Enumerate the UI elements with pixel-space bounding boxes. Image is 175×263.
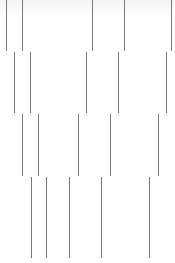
- vertical-line: [158, 114, 159, 176]
- line-row-4: [0, 177, 175, 258]
- vertical-line: [110, 114, 111, 176]
- vertical-line: [118, 52, 119, 113]
- vertical-line: [6, 0, 7, 51]
- vertical-line: [166, 52, 167, 113]
- vertical-line: [46, 177, 47, 258]
- vertical-line: [30, 52, 31, 113]
- vertical-line: [22, 0, 23, 51]
- line-row-1: [0, 0, 175, 51]
- vertical-line: [124, 0, 125, 51]
- vertical-line: [69, 177, 70, 258]
- vertical-line: [101, 177, 102, 258]
- vertical-line: [78, 114, 79, 176]
- vertical-line: [171, 0, 172, 51]
- vertical-line: [149, 177, 150, 258]
- vertical-line: [86, 52, 87, 113]
- vertical-line: [14, 52, 15, 113]
- line-row-3: [0, 114, 175, 176]
- line-row-2: [0, 52, 175, 113]
- vertical-line: [38, 114, 39, 176]
- vertical-line: [92, 0, 93, 51]
- vertical-line: [22, 114, 23, 176]
- vertical-line: [31, 177, 32, 258]
